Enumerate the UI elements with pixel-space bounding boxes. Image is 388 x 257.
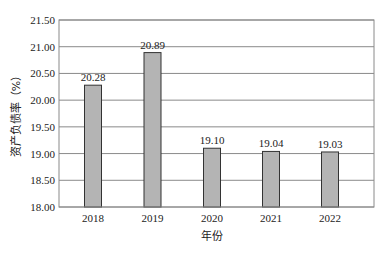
y-tick-label: 19.00 — [30, 148, 55, 160]
y-tick-label: 18.50 — [30, 174, 55, 186]
x-tick-label: 2022 — [319, 212, 341, 224]
y-tick-label: 21.00 — [30, 41, 55, 53]
y-tick-label: 19.50 — [30, 121, 55, 133]
x-axis-ticks: 20182019202020212022 — [82, 212, 341, 224]
y-tick-label: 18.00 — [30, 201, 55, 213]
x-tick-label: 2018 — [82, 212, 105, 224]
data-label: 20.89 — [140, 39, 165, 51]
bar-chart: 18.0018.5019.0019.5020.0020.5021.0021.50… — [0, 0, 388, 257]
x-tick-label: 2019 — [142, 212, 165, 224]
y-axis-label: 资产负债率（%） — [9, 70, 23, 157]
bar-2018 — [85, 85, 102, 207]
x-axis-label: 年份 — [201, 229, 223, 243]
x-tick-label: 2020 — [201, 212, 224, 224]
data-label: 19.03 — [318, 138, 343, 150]
data-label: 20.28 — [81, 71, 106, 83]
y-tick-label: 20.00 — [30, 94, 55, 106]
data-label: 19.04 — [259, 137, 284, 149]
bar-2021 — [263, 151, 280, 207]
bar-2019 — [144, 53, 161, 207]
bars: 20.2820.8919.1019.0419.03 — [81, 39, 343, 207]
y-tick-label: 21.50 — [30, 14, 55, 26]
data-label: 19.10 — [200, 134, 225, 146]
y-tick-label: 20.50 — [30, 67, 55, 79]
bar-2020 — [204, 148, 221, 207]
x-tick-label: 2021 — [260, 212, 282, 224]
bar-2022 — [322, 152, 339, 207]
y-axis-ticks: 18.0018.5019.0019.5020.0020.5021.0021.50 — [30, 14, 55, 213]
